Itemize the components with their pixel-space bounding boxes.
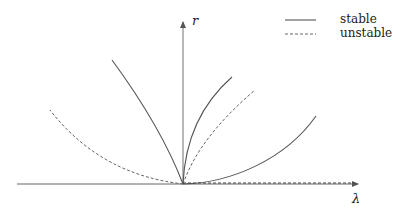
branch-left-unstable xyxy=(50,110,183,184)
branch-right-unstable xyxy=(183,90,255,184)
legend-stable-label: stable xyxy=(340,13,377,25)
branch-right-steep-stable xyxy=(183,77,232,184)
bifurcation-diagram: r λ stable unstable xyxy=(0,0,401,215)
lambda-axis-label: λ xyxy=(352,192,360,205)
legend-unstable-label: unstable xyxy=(340,27,392,39)
branch-left-steep-stable xyxy=(112,60,183,184)
r-axis-label: r xyxy=(192,14,198,27)
branch-right-shallow-stable xyxy=(183,116,316,184)
